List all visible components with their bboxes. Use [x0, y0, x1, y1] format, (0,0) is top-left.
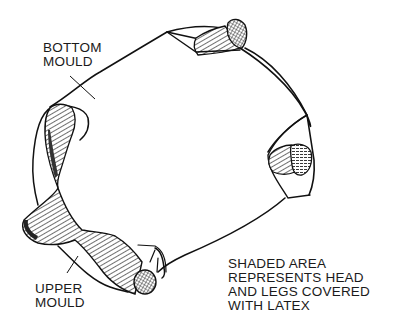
- latex-head-body: [23, 188, 142, 294]
- caption-line-3: AND LEGS COVERED: [228, 285, 370, 299]
- caption-line-1: SHADED AREA: [228, 257, 370, 271]
- bottom-mould-label: BOTTOM MOULD: [43, 41, 102, 69]
- caption-line-2: REPRESENTS HEAD: [228, 271, 370, 285]
- bottom-mould-label-line-2: MOULD: [43, 55, 102, 69]
- upper-mould-label: UPPER MOULD: [35, 282, 85, 310]
- latex-leg-bottom-end: [134, 270, 156, 294]
- bottom-mould-label-line-1: BOTTOM: [43, 41, 102, 55]
- bottom-mould-leader: [70, 76, 95, 99]
- shaded-area-caption: SHADED AREA REPRESENTS HEAD AND LEGS COV…: [228, 257, 370, 313]
- caption-line-4: WITH LATEX: [228, 299, 370, 313]
- upper-mould-label-line-1: UPPER: [35, 282, 85, 296]
- latex-leg-right-end: [291, 144, 312, 175]
- upper-mould-label-line-2: MOULD: [35, 296, 85, 310]
